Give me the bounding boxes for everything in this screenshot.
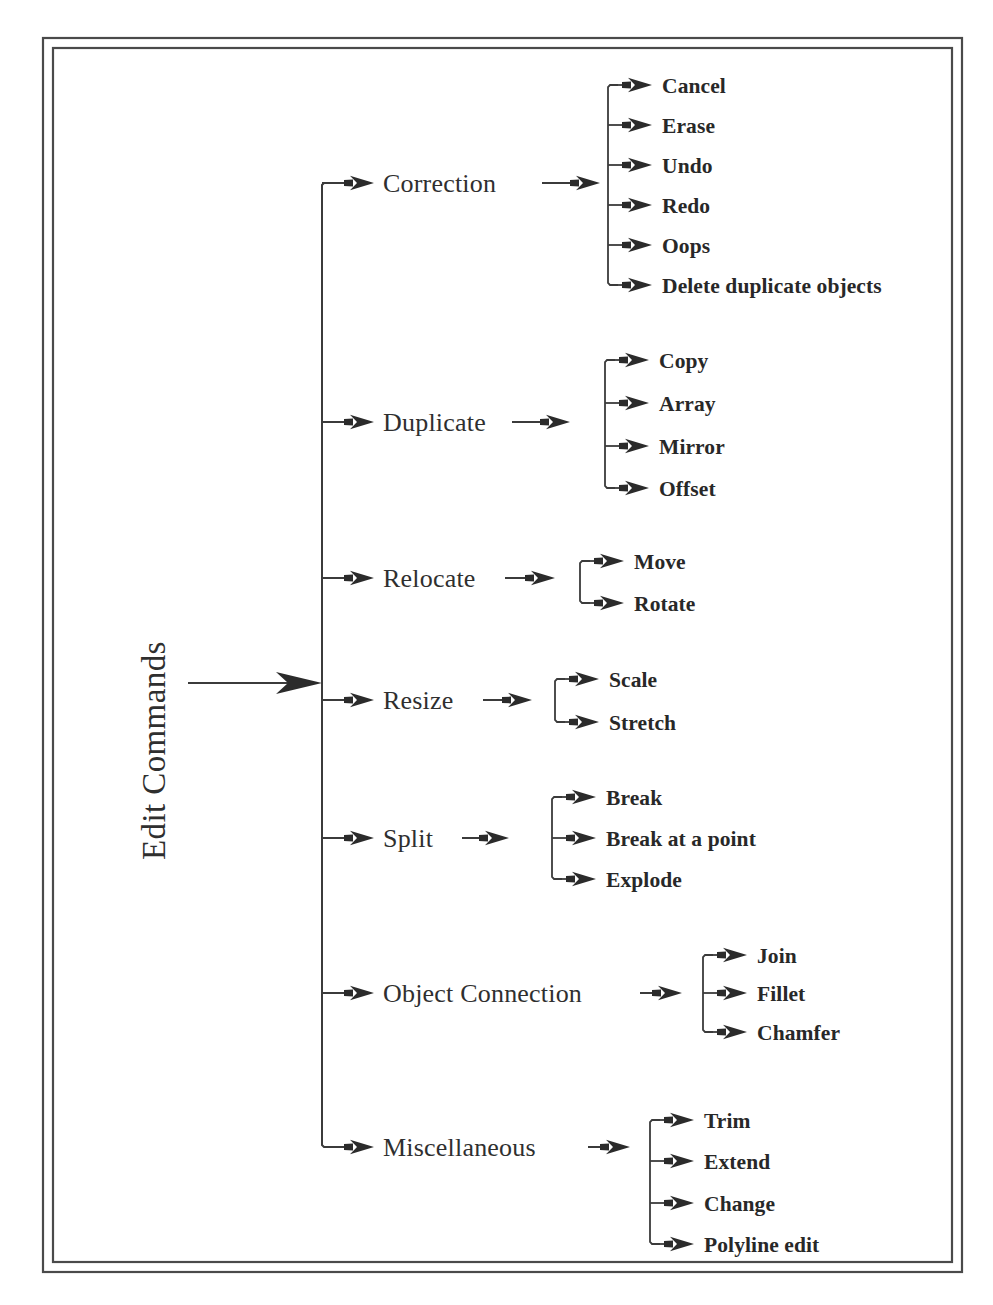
- leaf-label-join: Join: [757, 944, 797, 968]
- root-connector: [188, 672, 322, 694]
- leaf-label-scale: Scale: [609, 668, 657, 692]
- leaf-label-trim: Trim: [704, 1109, 751, 1133]
- leaf-label-erase: Erase: [662, 114, 715, 138]
- branch-duplicate: Duplicate Copy Array Mirror Offset: [322, 349, 725, 501]
- branch-resize: Resize Scale Stretch: [322, 668, 676, 735]
- leaf-label-explode: Explode: [606, 868, 682, 892]
- branch-relocate: Relocate Move Rotate: [322, 550, 696, 616]
- leaf-label-chamfer: Chamfer: [757, 1021, 840, 1045]
- leaf-label-delete-duplicate-objects: Delete duplicate objects: [662, 274, 882, 298]
- root-node: Edit Commands: [136, 641, 172, 860]
- branch-miscellaneous: Miscellaneous Trim Extend Change Polylin…: [330, 1109, 820, 1257]
- branch-label-duplicate: Duplicate: [383, 408, 486, 437]
- leaf-label-array: Array: [659, 392, 716, 416]
- branch-object-connection: Object Connection Join Fillet Chamfer: [322, 944, 840, 1045]
- leaf-label-undo: Undo: [662, 154, 713, 178]
- leaf-label-change: Change: [704, 1192, 775, 1216]
- branch-label-correction: Correction: [383, 169, 496, 198]
- leaf-label-polyline-edit: Polyline edit: [704, 1233, 820, 1257]
- leaf-label-break: Break: [606, 786, 662, 810]
- figure-border: [43, 38, 962, 1272]
- leaf-label-fillet: Fillet: [757, 982, 806, 1006]
- leaf-label-rotate: Rotate: [634, 592, 696, 616]
- branch-label-split: Split: [383, 824, 434, 853]
- branch-label-object-connection: Object Connection: [383, 979, 582, 1008]
- leaf-label-break-at-a-point: Break at a point: [606, 827, 757, 851]
- branch-split: Split Break Break at a point Explode: [322, 786, 757, 892]
- edit-commands-tree-diagram: Edit Commands Correction Cance: [0, 0, 993, 1305]
- leaf-label-oops: Oops: [662, 234, 710, 258]
- leaf-label-redo: Redo: [662, 194, 710, 218]
- diagram-canvas: Edit Commands Correction Cance: [0, 0, 993, 1305]
- branch-label-resize: Resize: [383, 686, 454, 715]
- leaf-label-cancel: Cancel: [662, 74, 726, 98]
- leaf-label-mirror: Mirror: [659, 435, 725, 459]
- branch-correction: Correction Cancel Erase Undo Redo: [322, 74, 882, 298]
- leaf-label-move: Move: [634, 550, 686, 574]
- branch-label-miscellaneous: Miscellaneous: [383, 1133, 536, 1162]
- branch-label-relocate: Relocate: [383, 564, 476, 593]
- leaf-label-offset: Offset: [659, 477, 716, 501]
- leaf-label-stretch: Stretch: [609, 711, 676, 735]
- root-label: Edit Commands: [136, 641, 172, 860]
- leaf-label-extend: Extend: [704, 1150, 770, 1174]
- leaf-label-copy: Copy: [659, 349, 709, 373]
- main-spine: [322, 183, 330, 1147]
